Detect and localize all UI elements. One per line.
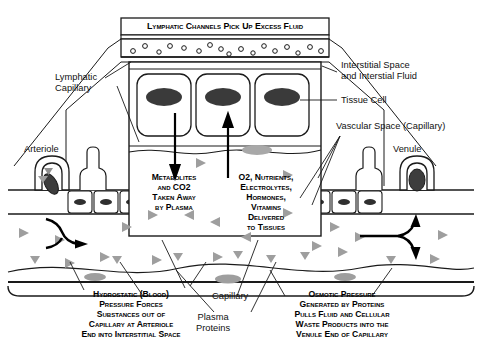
label-tissue-cell: Tissue Cell — [341, 95, 387, 106]
flow-arrow-arteriole — [46, 219, 78, 248]
tissue-cell-nucleus — [146, 88, 182, 106]
label-interstitial-space: Interstitial Space and Interstial Fluid — [341, 60, 417, 82]
flow-arrow-arteriole-head — [75, 240, 88, 249]
venule-branch-connector — [356, 147, 382, 190]
label-vascular-space: Vascular Space (Capillary) — [336, 121, 445, 132]
flow-arrow-venule-head-up — [411, 214, 421, 227]
flow-arrow-venule-head-down — [411, 247, 421, 260]
label-capillary: Capillary — [212, 291, 248, 302]
bottom-right-caption: Osmotic Pressure Generated by Proteins P… — [272, 289, 412, 339]
center-left-caption: Metabolites and CO2 Taken Away by Plasma — [133, 172, 215, 212]
bottom-left-caption: Hydrostatic (Blood) Pressure Forces Subs… — [62, 289, 200, 339]
label-plasma-proteins: Plasma Proteins — [196, 312, 230, 334]
tissue-cell-nucleus — [264, 88, 300, 106]
arteriole-branch-connector — [80, 147, 106, 190]
label-venule: Venule — [393, 144, 421, 155]
center-right-caption: O2, Nutrients, Electrolytes, Hormones, V… — [222, 172, 310, 232]
label-arteriole: Arteriole — [24, 144, 59, 155]
label-lymphatic-capillary: Lymphatic Capillary — [55, 72, 97, 94]
diagram-canvas: Lymphatic Channels Pick Up Excess Fluid … — [0, 0, 482, 358]
lymphatic-banner-text: Lymphatic Channels Pick Up Excess Fluid — [121, 21, 329, 31]
venule-blood-cell — [409, 169, 425, 191]
tissue-cell-nucleus — [205, 88, 241, 106]
flow-arrow-venule — [360, 224, 414, 250]
